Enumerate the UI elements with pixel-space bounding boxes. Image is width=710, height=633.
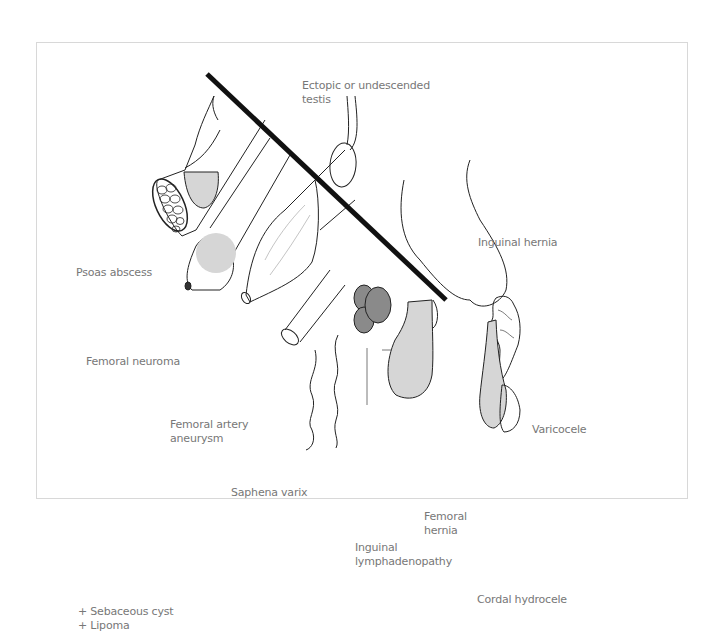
inguinal-hernia xyxy=(467,160,507,306)
label-psoas-abscess: Psoas abscess xyxy=(76,266,152,280)
femoral-artery-aneurysm xyxy=(246,180,318,302)
cordal-hydrocele xyxy=(480,320,507,428)
abdomen-outline xyxy=(401,180,470,300)
femoral-neuroma-fill xyxy=(196,233,236,273)
inguinal-lymph-nodes xyxy=(354,285,391,333)
label-varicocele: Varicocele xyxy=(532,423,586,437)
label-femoral-neuroma: Femoral neuroma xyxy=(86,355,180,369)
label-inguinal-hernia: Inguinal hernia xyxy=(478,236,557,250)
label-femoral-hernia: Femoralhernia xyxy=(424,510,467,538)
label-cordal-hydrocele: Cordal hydrocele xyxy=(477,593,567,607)
label-ectopic-testis: Ectopic or undescendedtestis xyxy=(302,79,430,107)
label-inguinal-lymphadenopathy: Inguinallymphadenopathy xyxy=(355,541,452,569)
label-saphena-varix: Saphena varix xyxy=(231,486,307,500)
saphena-varix xyxy=(306,335,338,450)
femoral-hernia xyxy=(388,300,433,398)
label-femoral-artery-aneurysm: Femoral arteryaneurysm xyxy=(170,418,248,446)
ectopic-testis xyxy=(328,142,358,188)
notes-list: + Sebaceous cyst + Lipoma xyxy=(78,605,173,633)
saphena-tube xyxy=(285,270,345,342)
note-lipoma: + Lipoma xyxy=(78,619,173,633)
note-sebaceous-cyst: + Sebaceous cyst xyxy=(78,605,173,619)
thigh-outline xyxy=(185,96,218,170)
inguinal-ligament xyxy=(207,74,446,300)
